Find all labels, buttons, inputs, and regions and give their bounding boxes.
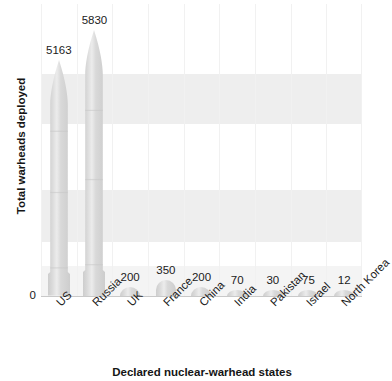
bar-north-korea[interactable] xyxy=(326,4,362,296)
bar-value-label: 350 xyxy=(148,264,184,277)
bar-china[interactable] xyxy=(184,4,220,296)
bar-value-label: 5163 xyxy=(41,44,77,57)
bar-india[interactable] xyxy=(219,4,255,296)
x-axis-title: Declared nuclear-warhead states xyxy=(0,366,370,378)
bar-pakistan[interactable] xyxy=(255,4,291,296)
bar-france[interactable] xyxy=(148,4,184,296)
y-axis-title: Total warheads deployed xyxy=(15,46,27,246)
bar-value-label: 5830 xyxy=(77,14,113,27)
bar-uk[interactable] xyxy=(112,4,148,296)
missile-icon xyxy=(48,60,70,296)
y-axis-tick-0: 0 xyxy=(22,288,36,302)
missile-icon xyxy=(83,30,105,296)
bar-russia[interactable] xyxy=(77,4,113,296)
plot-area: 5163583020035020070307512 xyxy=(41,4,362,296)
bar-israel[interactable] xyxy=(291,4,327,296)
